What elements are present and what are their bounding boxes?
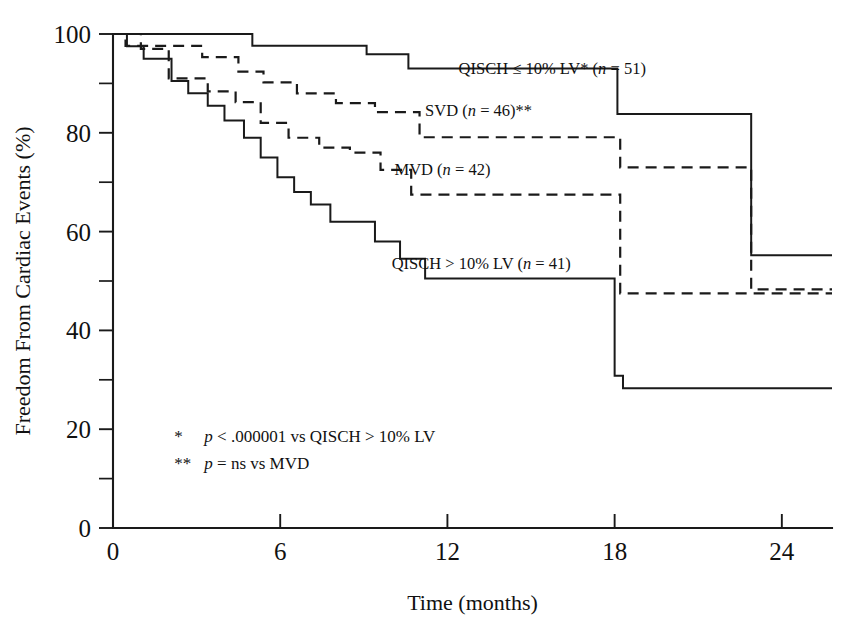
y-axis-title: Freedom From Cardiac Events (%) [10, 126, 35, 435]
series-label-3: MVD (n = 42) [394, 160, 490, 179]
chart-background [0, 0, 843, 629]
series-label-2: SVD (n = 46)** [425, 101, 532, 120]
x-axis-title: Time (months) [407, 590, 538, 615]
footnote-marker-2: ** [174, 454, 191, 473]
x-tick-label: 0 [107, 538, 120, 565]
kaplan-meier-chart: 020406080100 06121824 QISCH ≤ 10% LV* (n… [0, 0, 843, 629]
figure-root: 020406080100 06121824 QISCH ≤ 10% LV* (n… [0, 0, 843, 629]
x-tick-label: 12 [435, 538, 460, 565]
y-tick-label: 20 [66, 416, 91, 443]
footnote-text-1: p < .000001 vs QISCH > 10% LV [203, 427, 436, 446]
series-label-4: QISCH > 10% LV (n = 41) [392, 254, 571, 273]
y-tick-label: 100 [54, 21, 92, 48]
x-tick-label: 6 [274, 538, 287, 565]
x-tick-label: 18 [602, 538, 627, 565]
y-tick-label: 40 [66, 317, 91, 344]
y-tick-label: 80 [66, 120, 91, 147]
series-label-1: QISCH ≤ 10% LV* (n = 51) [459, 59, 646, 78]
footnote-marker-1: * [174, 427, 183, 446]
footnote-text-2: p = ns vs MVD [203, 454, 309, 473]
y-tick-label: 60 [66, 219, 91, 246]
x-tick-label: 24 [769, 538, 795, 565]
y-tick-label: 0 [79, 515, 92, 542]
